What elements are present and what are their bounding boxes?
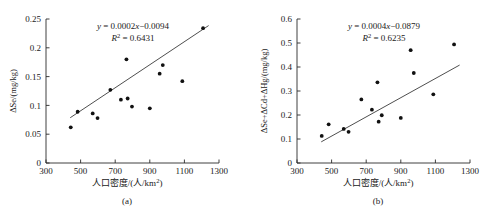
trendline-b [321, 65, 459, 142]
y-ticks-b [297, 19, 301, 163]
data-point [452, 43, 456, 47]
x-tick-label: 1100 [176, 166, 194, 176]
x-tick-label: 900 [394, 166, 408, 176]
x-tick-label: 500 [325, 166, 339, 176]
data-point [125, 57, 129, 61]
panel-caption-b: (b) [373, 196, 384, 206]
data-point [347, 130, 351, 134]
r-squared-a: R2 = 0.6431 [110, 32, 154, 43]
y-tick-label: 0.15 [25, 72, 41, 82]
data-point [180, 79, 184, 83]
y-axis-title-a: ΔSe/(mg/kg) [8, 69, 18, 113]
y-tick-label: 0.3 [281, 86, 293, 96]
data-points-b [320, 43, 456, 138]
y-tick-label: 0.1 [281, 134, 292, 144]
x-tick-labels-b: 30050070090011001300 [290, 166, 479, 176]
x-axis-title-b: 人口密度/(人/km2) [343, 177, 414, 188]
data-point [158, 72, 162, 76]
y-tick-label: 0.05 [25, 129, 41, 139]
data-point [342, 127, 346, 131]
data-point [399, 116, 403, 120]
data-point [201, 26, 205, 30]
equation-a: y = 0.0002x−0.0094 [96, 21, 170, 31]
y-axis-title-b: ΔSe+ΔCd+ΔHg/(mg/kg) [259, 49, 269, 134]
x-tick-label: 700 [359, 166, 373, 176]
data-point [126, 97, 130, 101]
scatter-plot-b: 00.10.20.30.40.50.6 30050070090011001300… [251, 0, 502, 211]
y-tick-label: 0.5 [281, 38, 293, 48]
data-point [76, 110, 80, 114]
x-tick-label: 900 [143, 166, 157, 176]
x-tick-label: 300 [290, 166, 304, 176]
x-tick-label: 300 [39, 166, 53, 176]
chart-panel-a: 00.050.10.150.20.25 30050070090011001300… [0, 0, 251, 211]
x-tick-label: 1300 [210, 166, 229, 176]
x-tick-labels-a: 30050070090011001300 [39, 166, 228, 176]
x-tick-label: 700 [108, 166, 122, 176]
data-point [377, 120, 381, 124]
data-point [91, 112, 95, 116]
x-tick-label: 500 [74, 166, 88, 176]
y-tick-label: 0.6 [281, 14, 293, 24]
data-point [359, 98, 363, 102]
data-point [412, 71, 416, 75]
r-squared-b: R2 = 0.6235 [361, 32, 406, 43]
panel-caption-a: (a) [122, 196, 132, 206]
scatter-plot-a: 00.050.10.150.20.25 30050070090011001300… [0, 0, 251, 211]
data-point [148, 106, 152, 110]
data-point [69, 125, 73, 129]
x-tick-label: 1300 [461, 166, 480, 176]
data-point [96, 116, 100, 120]
x-ticks-a [46, 160, 219, 164]
data-point [161, 63, 165, 67]
y-tick-label: 0.25 [25, 14, 41, 24]
figure-container: 00.050.10.150.20.25 30050070090011001300… [0, 0, 503, 211]
data-point [108, 88, 112, 92]
y-tick-labels-b: 00.10.20.30.40.50.6 [281, 14, 293, 168]
equation-b: y = 0.0004x−0.0879 [347, 21, 421, 31]
y-tick-label: 0.1 [30, 101, 41, 111]
data-point [119, 98, 123, 102]
data-point [370, 108, 374, 112]
data-point [130, 105, 134, 109]
x-ticks-b [297, 160, 470, 164]
data-point [431, 92, 435, 96]
data-point [409, 48, 413, 52]
x-axis-title-a: 人口密度/(人/km2) [92, 177, 163, 188]
y-ticks-a [46, 19, 50, 163]
y-tick-label: 0.2 [281, 110, 292, 120]
data-point [327, 122, 331, 126]
y-tick-label: 0.2 [30, 43, 41, 53]
y-tick-label: 0.4 [281, 62, 293, 72]
x-tick-label: 1100 [427, 166, 445, 176]
chart-panel-b: 00.10.20.30.40.50.6 30050070090011001300… [251, 0, 502, 211]
y-tick-labels-a: 00.050.10.150.20.25 [25, 14, 41, 168]
data-point [376, 80, 380, 84]
data-point [380, 113, 384, 117]
data-point [320, 134, 324, 138]
